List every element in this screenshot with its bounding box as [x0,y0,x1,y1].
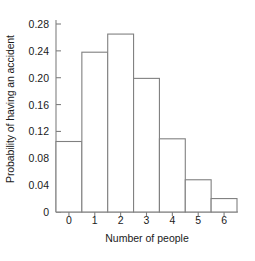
bar [211,199,237,212]
bar-rect [108,34,134,212]
bar-series [56,34,237,212]
histogram-figure: Probability of having an accident 00.040… [0,0,255,261]
x-tick-label: 5 [188,215,208,226]
x-axis-title: Number of people [52,232,242,244]
bar-rect [211,199,237,212]
bar [185,180,211,212]
x-tick-label: 6 [214,215,234,226]
bar-rect [185,180,211,212]
x-tick-label: 4 [162,215,182,226]
x-tick-label: 3 [137,215,157,226]
bar [134,78,160,212]
bar [108,34,134,212]
x-tick-label: 0 [59,215,79,226]
x-tick-label: 2 [111,215,131,226]
bar-rect [82,52,108,212]
bar-rect [159,139,185,212]
bar-rect [134,78,160,212]
bar-rect [56,142,82,213]
bar [159,139,185,212]
bar [56,142,82,213]
x-tick-label: 1 [85,215,105,226]
bar [82,52,108,212]
x-axis-tick-labels: 0123456 [0,215,255,229]
